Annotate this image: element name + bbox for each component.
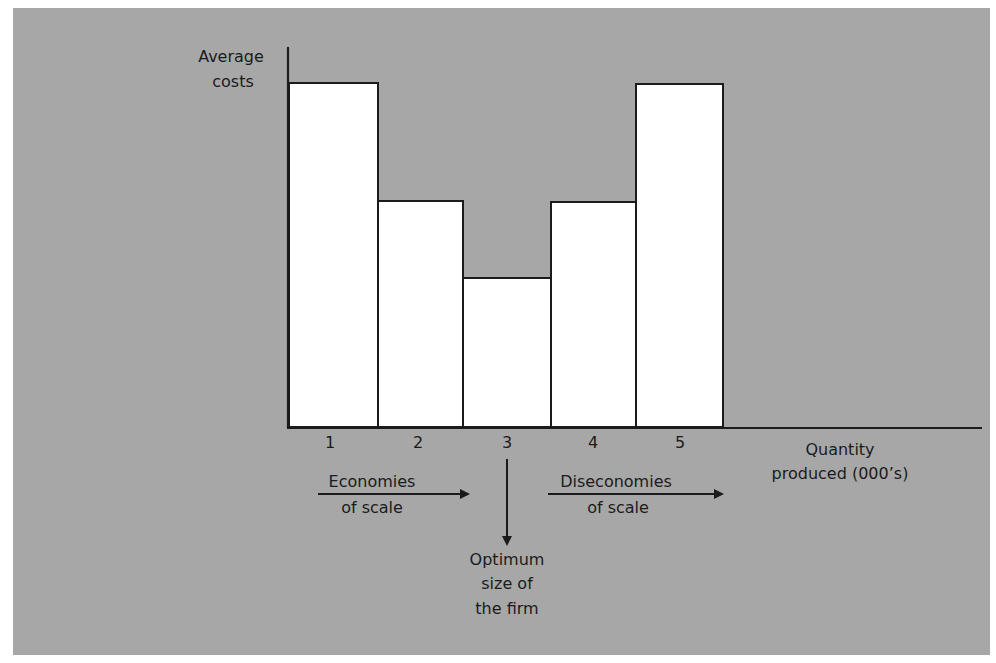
x-tick-5: 5 <box>675 433 685 452</box>
x-tick-4: 4 <box>588 433 598 452</box>
x-tick-2: 2 <box>413 433 423 452</box>
bars <box>289 83 723 427</box>
economies-label-line2: of scale <box>341 498 403 517</box>
cost-bar-chart: Average costs 1 2 3 4 5 Quantity produce… <box>0 0 996 663</box>
diseconomies-label-line2: of scale <box>587 498 649 517</box>
y-axis-label-line2: costs <box>212 72 254 91</box>
bar-1 <box>289 83 378 427</box>
bar-5 <box>636 84 723 427</box>
bar-2 <box>378 201 463 427</box>
x-axis-label-line1: Quantity <box>805 440 874 459</box>
bar-3 <box>463 278 551 427</box>
x-axis-label-line2: produced (000’s) <box>772 464 909 483</box>
x-tick-1: 1 <box>325 433 335 452</box>
economies-label-line1: Economies <box>329 472 416 491</box>
optimum-label-line3: the firm <box>475 599 538 618</box>
optimum-label-line2: size of <box>481 574 533 593</box>
x-tick-3: 3 <box>502 433 512 452</box>
diseconomies-label-line1: Diseconomies <box>560 472 672 491</box>
bar-4 <box>551 202 636 427</box>
optimum-label-line1: Optimum <box>470 550 545 569</box>
y-axis-label-line1: Average <box>198 47 264 66</box>
